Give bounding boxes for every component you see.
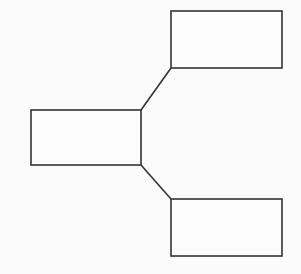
- node-group: [31, 11, 282, 256]
- node-branch-top-box[interactable]: [171, 11, 282, 68]
- diagram-canvas: [0, 0, 301, 274]
- connector-root-to-branch-top[interactable]: [141, 68, 171, 110]
- diagram-svg: [0, 0, 301, 274]
- node-branch-bottom-box[interactable]: [171, 199, 282, 256]
- connector-group: [141, 68, 171, 199]
- node-root[interactable]: [31, 110, 141, 165]
- connector-root-to-branch-bottom[interactable]: [141, 165, 171, 199]
- node-branch-bottom[interactable]: [171, 199, 282, 256]
- node-root-box[interactable]: [31, 110, 141, 165]
- node-branch-top[interactable]: [171, 11, 282, 68]
